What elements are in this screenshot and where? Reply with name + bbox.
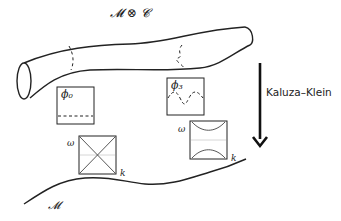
label-phi0: ϕ₀ — [61, 88, 73, 101]
label-base-manifold: 𝓜 — [48, 199, 60, 212]
label-kaluza-klein: Kaluza–Klein — [266, 86, 332, 98]
kaluza-klein-arrow — [253, 63, 267, 146]
axis-omega-1: ω — [67, 138, 74, 148]
base-manifold-line — [24, 159, 246, 204]
label-product-manifold: 𝓜 ⊗ 𝓒 — [110, 6, 149, 20]
label-phi3: ϕ₃ — [171, 79, 183, 92]
diagram-canvas — [0, 0, 341, 221]
axis-k-2: k — [231, 153, 236, 163]
tube-cross-sections — [69, 45, 184, 70]
tube-manifold — [17, 27, 253, 99]
dispersion-plot-gapped — [190, 121, 227, 159]
dispersion-plot-gapless — [79, 136, 116, 174]
axis-omega-2: ω — [178, 124, 185, 134]
axis-k-1: k — [120, 168, 125, 178]
